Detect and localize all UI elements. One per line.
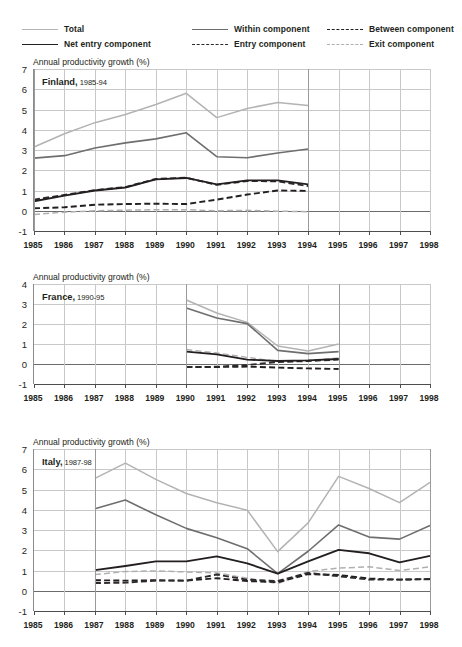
x-tick-1986 (64, 611, 65, 615)
x-tick-label-1995: 1995 (328, 620, 347, 630)
x-tick-1990 (186, 611, 187, 615)
chart-title-years: 1990-95 (75, 293, 104, 302)
x-tick-label-1986: 1986 (54, 240, 73, 250)
data-span-rule-start (186, 284, 187, 384)
panel-finland: Annual productivity growth (%)-101234567… (0, 57, 462, 253)
legend-row-1: Total Within component Between component (0, 22, 462, 36)
x-tick-1989 (156, 231, 157, 235)
legend-item-net-entry: Net entry component (22, 37, 192, 51)
x-tick-1993 (278, 611, 279, 615)
y-tick-label--1: -1 (1, 379, 27, 390)
x-tick-label-1996: 1996 (359, 240, 378, 250)
x-tick-1994 (308, 384, 309, 388)
x-tick-label-1985: 1985 (23, 620, 42, 630)
chart-title-france: France, 1990-95 (42, 292, 104, 302)
legend-label-exit: Exit component (369, 39, 434, 49)
x-tick-label-1986: 1986 (54, 393, 73, 403)
legend-label-between: Between component (369, 24, 454, 34)
data-span-rule-end (430, 449, 431, 611)
legend-label-within: Within component (234, 24, 310, 34)
x-tick-1988 (125, 231, 126, 235)
plot-area-finland: -101234567 (0, 69, 462, 231)
x-tick-1985 (34, 231, 35, 235)
panel-axis-title: Annual productivity growth (%) (33, 272, 150, 282)
chart-title-years: 1987-98 (63, 458, 92, 467)
x-tick-1996 (369, 384, 370, 388)
legend-swatch-between-icon (327, 25, 363, 34)
x-tick-label-1995: 1995 (328, 240, 347, 250)
chart-title-italy: Italy, 1987-98 (42, 457, 92, 467)
x-tick-1996 (369, 231, 370, 235)
x-tick-label-1994: 1994 (298, 240, 317, 250)
legend-swatch-within-icon (192, 25, 228, 34)
legend-label-entry: Entry component (234, 39, 305, 49)
legend-item-within: Within component (192, 22, 327, 36)
x-tick-label-1991: 1991 (206, 393, 225, 403)
y-tick-label-2: 2 (1, 319, 27, 330)
x-tick-1987 (95, 231, 96, 235)
legend-row-2: Net entry component Entry component Exit… (0, 37, 462, 51)
x-tick-1989 (156, 384, 157, 388)
x-tick-1996 (369, 611, 370, 615)
x-tick-1993 (278, 384, 279, 388)
x-tick-label-1996: 1996 (359, 620, 378, 630)
x-tick-label-1988: 1988 (115, 393, 134, 403)
legend-item-entry: Entry component (192, 37, 327, 51)
x-tick-label-1996: 1996 (359, 393, 378, 403)
x-tick-label-1992: 1992 (237, 240, 256, 250)
x-tick-1991 (217, 231, 218, 235)
chart-title-country: Finland, (42, 77, 78, 87)
x-tick-label-1991: 1991 (206, 620, 225, 630)
plot-area-italy: -101234567 (0, 449, 462, 611)
y-tick-label-6: 6 (1, 464, 27, 475)
x-tick-1992 (247, 611, 248, 615)
x-tick-label-1987: 1987 (84, 620, 103, 630)
x-tick-label-1998: 1998 (419, 240, 438, 250)
x-tick-1988 (125, 611, 126, 615)
series-line-total (34, 93, 308, 147)
plot-frame: -101234567 (33, 449, 429, 611)
gridline-x-1998 (430, 69, 431, 231)
x-tick-1991 (217, 384, 218, 388)
x-tick-1994 (308, 231, 309, 235)
y-tick-label-4: 4 (1, 124, 27, 135)
x-tick-1995 (339, 384, 340, 388)
figure-root: Total Within component Between component… (0, 0, 462, 647)
y-tick-label-1: 1 (1, 565, 27, 576)
x-tick-1998 (430, 611, 431, 615)
x-tick-label-1993: 1993 (267, 393, 286, 403)
y-tick-label-5: 5 (1, 104, 27, 115)
x-tick-label-1997: 1997 (389, 240, 408, 250)
y-tick-label-7: 7 (1, 444, 27, 455)
y-tick-label--1: -1 (1, 226, 27, 237)
y-tick-label-4: 4 (1, 279, 27, 290)
x-tick-label-1989: 1989 (145, 240, 164, 250)
x-tick-label-1987: 1987 (84, 393, 103, 403)
data-span-rule-start (95, 449, 96, 611)
x-tick-1988 (125, 384, 126, 388)
x-tick-1985 (34, 611, 35, 615)
x-tick-1995 (339, 611, 340, 615)
y-tick-label-4: 4 (1, 504, 27, 515)
x-tick-label-1993: 1993 (267, 620, 286, 630)
x-tick-label-1986: 1986 (54, 620, 73, 630)
series-line-exit (34, 210, 308, 215)
y-tick-label-5: 5 (1, 484, 27, 495)
x-tick-1997 (400, 611, 401, 615)
x-tick-label-1990: 1990 (176, 240, 195, 250)
legend-item-exit: Exit component (327, 37, 462, 51)
x-tick-label-1990: 1990 (176, 620, 195, 630)
x-tick-1997 (400, 384, 401, 388)
legend-swatch-net-entry-icon (22, 40, 58, 49)
x-tick-label-1990: 1990 (176, 393, 195, 403)
x-tick-label-1988: 1988 (115, 620, 134, 630)
series-layer (34, 449, 430, 611)
series-line-within (186, 308, 338, 354)
x-tick-1986 (64, 231, 65, 235)
x-tick-1987 (95, 611, 96, 615)
chart-title-country: Italy, (42, 457, 63, 467)
x-tick-1986 (64, 384, 65, 388)
x-tick-1992 (247, 231, 248, 235)
series-line-total (186, 300, 338, 351)
x-tick-label-1998: 1998 (419, 393, 438, 403)
